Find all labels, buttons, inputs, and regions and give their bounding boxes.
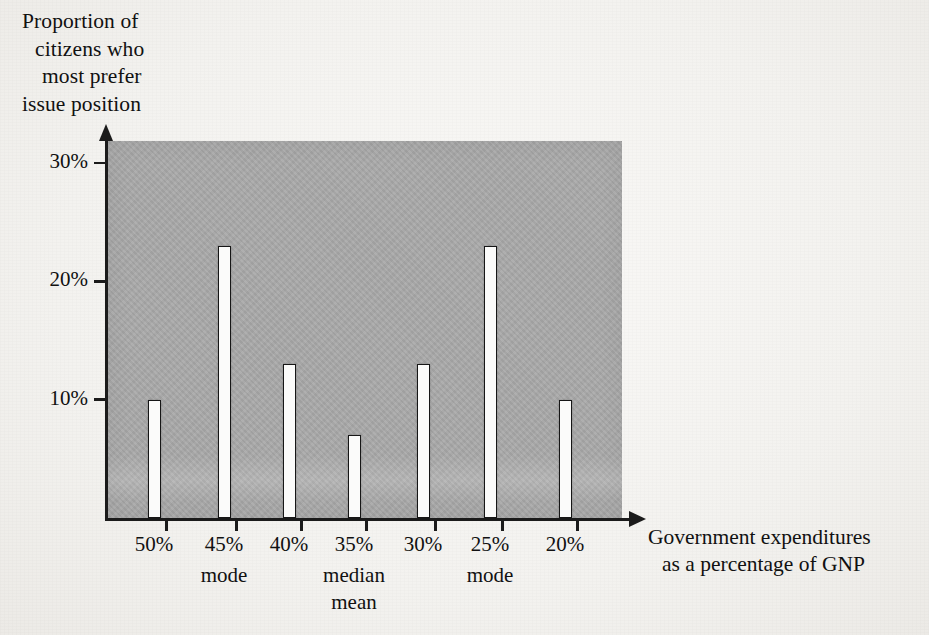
x-axis-annotation-median: median (299, 563, 409, 588)
x-axis-tick (365, 519, 368, 531)
x-axis-annotation-mode: mode (435, 563, 545, 588)
y-axis-title-line-1: Proportion of (22, 8, 262, 36)
x-axis-tick (235, 519, 238, 531)
x-axis-tick-label: 35% (319, 532, 389, 556)
x-axis-tick-label: 50% (119, 532, 189, 556)
y-axis-title-line-4: issue position (22, 91, 262, 119)
x-axis-title-line-1: Government expenditures (648, 524, 923, 551)
bar (283, 364, 296, 518)
x-axis-tick-label: 30% (388, 532, 458, 556)
bar (559, 400, 572, 518)
bar (484, 246, 497, 518)
x-axis-tick-label: 45% (189, 532, 259, 556)
x-axis-tick (434, 519, 437, 531)
x-axis-tick (300, 519, 303, 531)
y-axis-tick-label: 20% (26, 269, 88, 290)
x-axis-annotation-mode: mode (169, 563, 279, 588)
x-axis-annotation-mean: mean (299, 590, 409, 615)
x-axis-tick-label: 25% (455, 532, 525, 556)
y-axis-title: Proportion of citizens who most prefer i… (22, 8, 262, 118)
x-axis-arrowhead-icon (629, 511, 646, 527)
x-axis-tick (165, 519, 168, 531)
x-axis-title-line-2: as a percentage of GNP (648, 551, 923, 578)
x-axis-line (105, 518, 632, 521)
y-axis-title-line-3: most prefer (22, 63, 262, 91)
y-axis-tick (94, 280, 107, 283)
x-axis-tick (501, 519, 504, 531)
bar (417, 364, 430, 518)
bar (148, 400, 161, 518)
y-axis-arrowhead-icon (99, 124, 113, 141)
x-axis-tick-label: 40% (254, 532, 324, 556)
bar-chart-figure: Proportion of citizens who most prefer i… (0, 0, 929, 635)
bar (348, 435, 361, 518)
x-axis-title: Government expenditures as a percentage … (648, 524, 923, 578)
x-axis-tick-label: 20% (530, 532, 600, 556)
y-axis-tick-label: 10% (26, 388, 88, 409)
bar (218, 246, 231, 518)
y-axis-line (105, 138, 108, 521)
y-axis-title-line-2: citizens who (22, 36, 262, 64)
x-axis-tick (576, 519, 579, 531)
y-axis-tick-label: 30% (26, 151, 88, 172)
y-axis-tick (94, 162, 107, 165)
y-axis-tick (94, 398, 107, 401)
plot-area (108, 141, 622, 519)
